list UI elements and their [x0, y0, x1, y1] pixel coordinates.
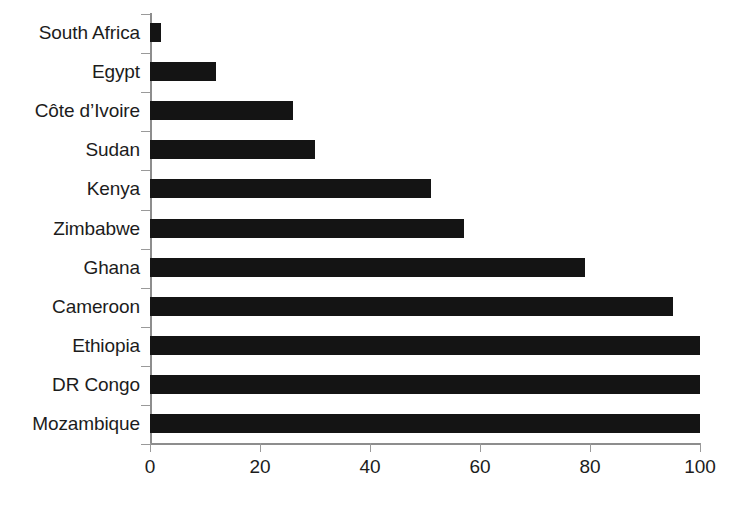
bar-row: Sudan: [0, 130, 735, 169]
bar-row: DR Congo: [0, 365, 735, 404]
bar-row: Ghana: [0, 248, 735, 287]
x-axis-tick-label: 0: [145, 455, 156, 479]
bar-chart: South AfricaEgyptCôte d’IvoireSudanKenya…: [0, 0, 735, 505]
category-label: Côte d’Ivoire: [35, 97, 140, 124]
bar: [150, 336, 700, 355]
bar-row: Egypt: [0, 52, 735, 91]
category-label: Sudan: [86, 136, 140, 163]
y-axis-tick: [141, 444, 150, 445]
category-label: Zimbabwe: [53, 215, 140, 242]
bar-row: Kenya: [0, 169, 735, 208]
y-axis-tick: [141, 92, 150, 93]
y-axis-tick: [141, 405, 150, 406]
bar-row: Mozambique: [0, 404, 735, 443]
x-axis-tick-label: 60: [469, 455, 490, 479]
category-label: Ethiopia: [72, 332, 140, 359]
y-axis-tick: [141, 327, 150, 328]
bar: [150, 375, 700, 394]
x-axis-tick: [700, 443, 701, 452]
category-label: South Africa: [39, 19, 140, 46]
bar: [150, 101, 293, 120]
y-axis-tick: [141, 131, 150, 132]
bar: [150, 23, 161, 42]
x-axis-tick: [590, 443, 591, 452]
x-axis-tick: [370, 443, 371, 452]
bar-row: Ethiopia: [0, 326, 735, 365]
bar: [150, 219, 464, 238]
x-axis-tick-label: 80: [579, 455, 600, 479]
bar-row: Côte d’Ivoire: [0, 91, 735, 130]
bar: [150, 140, 315, 159]
category-label: Mozambique: [32, 410, 140, 437]
bar: [150, 258, 585, 277]
category-label: Kenya: [87, 175, 140, 202]
x-axis-tick-label: 100: [684, 455, 716, 479]
bar: [150, 62, 216, 81]
bar: [150, 414, 700, 433]
category-label: DR Congo: [52, 371, 140, 398]
x-axis-tick: [150, 443, 151, 452]
bar-row: Cameroon: [0, 287, 735, 326]
bar: [150, 297, 673, 316]
x-axis-tick: [480, 443, 481, 452]
x-axis-tick: [260, 443, 261, 452]
y-axis-tick: [141, 14, 150, 15]
bar-row: South Africa: [0, 13, 735, 52]
y-axis-tick: [141, 210, 150, 211]
x-axis-tick-label: 40: [359, 455, 380, 479]
y-axis-tick: [141, 366, 150, 367]
category-label: Egypt: [92, 58, 140, 85]
category-label: Ghana: [83, 254, 140, 281]
bar: [150, 179, 431, 198]
x-axis-tick-label: 20: [249, 455, 270, 479]
y-axis-tick: [141, 53, 150, 54]
bars-layer: South AfricaEgyptCôte d’IvoireSudanKenya…: [0, 0, 735, 505]
category-label: Cameroon: [52, 293, 140, 320]
y-axis-tick: [141, 288, 150, 289]
y-axis-tick: [141, 170, 150, 171]
y-axis-tick: [141, 249, 150, 250]
bar-row: Zimbabwe: [0, 209, 735, 248]
